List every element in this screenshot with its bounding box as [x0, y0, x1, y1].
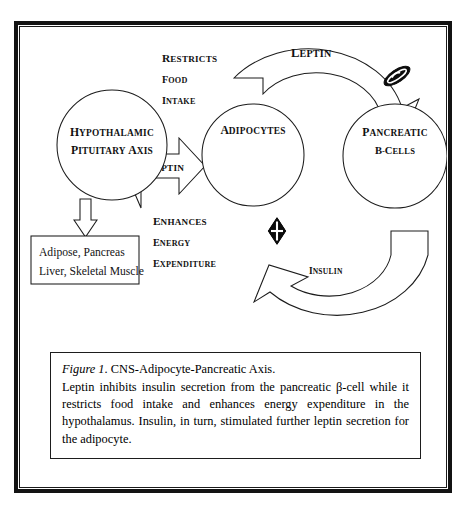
pancreatic-bcells-label-line2: B-CELLS [375, 145, 415, 156]
restricts-food-intake-line3: INTAKE [162, 95, 196, 106]
tissue-box-line1: Adipose, Pancreas [39, 246, 125, 259]
figure-caption-title-line: Figure 1. CNS-Adipocyte-Pancreatic Axis. [62, 361, 409, 379]
restricts-food-intake-line2: FOOD [162, 74, 188, 85]
enhances-energy-expenditure-line2: ENERGY [153, 237, 191, 248]
tissue-target-box: Adipose, Pancreas Liver, Skeletal Muscle [31, 236, 144, 284]
enhances-energy-expenditure-line3: EXPENDITURE [153, 258, 217, 269]
hypothalamic-pituitary-axis-label-line2: PITUITARY AXIS [71, 144, 153, 157]
inhibition-marker-icon [381, 62, 413, 89]
adipocytes-label: ADIPOCYTES [220, 124, 285, 137]
insulin-arrow-label: INSULIN [309, 266, 343, 276]
figure-caption-title: . CNS-Adipocyte-Pancreatic Axis. [105, 362, 276, 376]
adipocytes-node: ADIPOCYTES [202, 104, 304, 206]
figure-number-label: Figure 1 [62, 362, 105, 376]
restricts-food-intake-line1: RESTRICTS [162, 52, 217, 64]
page-canvas: LEPTIN INSULIN LEPTIN HYPOTHALAMIC PITUI… [0, 0, 469, 518]
enhances-energy-expenditure-annotation: ENHANCES ENERGY EXPENDITURE [153, 215, 217, 269]
tissue-box-line2: Liver, Skeletal Muscle [39, 265, 144, 278]
stimulation-marker-icon [269, 218, 286, 244]
figure-caption-box: Figure 1. CNS-Adipocyte-Pancreatic Axis.… [50, 352, 421, 459]
enhances-energy-expenditure-line1: ENHANCES [153, 215, 207, 227]
restricts-food-intake-annotation: RESTRICTS FOOD INTAKE [162, 52, 217, 106]
hypothalamic-pituitary-axis-node: HYPOTHALAMIC PITUITARY AXIS [57, 90, 167, 200]
figure-caption-body: Leptin inhibits insulin secretion from t… [62, 379, 409, 449]
pancreatic-bcells-node: PANCREATIC B-CELLS [343, 104, 447, 208]
hypothalamic-pituitary-axis-label-line1: HYPOTHALAMIC [70, 126, 154, 139]
hypothalamus-to-tissue-block-arrow [74, 199, 97, 237]
pancreatic-bcells-label-line1: PANCREATIC [362, 126, 427, 139]
leptin-to-pancreas-arrow-label: LEPTIN [291, 46, 332, 60]
